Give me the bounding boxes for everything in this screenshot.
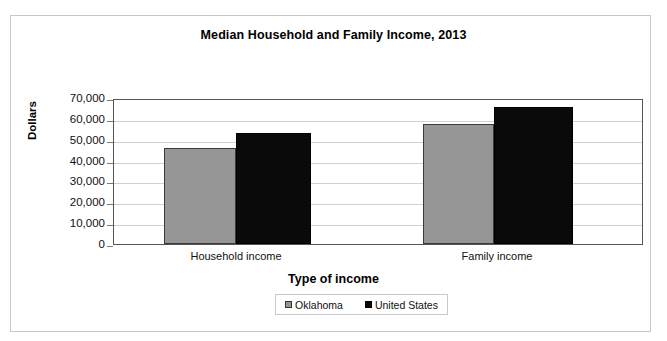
y-axis-tick-label: 70,000 (47, 93, 105, 104)
x-axis-label-household-income: Household income (166, 250, 306, 262)
y-axis-tick-label: 0 (47, 239, 105, 250)
legend-label: United States (375, 299, 438, 311)
y-axis-tick-label: 10,000 (47, 218, 105, 229)
y-axis-tick (107, 183, 113, 184)
chart-legend: OklahomaUnited States (275, 294, 448, 315)
x-axis-label-family-income: Family income (427, 250, 567, 262)
y-axis-tick-label: 60,000 (47, 114, 105, 125)
bar-united-states-household-income (236, 133, 311, 244)
y-axis-tick (107, 246, 113, 247)
y-axis-tick (107, 163, 113, 164)
y-axis-tick-label: 50,000 (47, 135, 105, 146)
bar-oklahoma-family-income (423, 124, 494, 244)
x-axis-title: Type of income (0, 272, 667, 286)
y-axis-tick (107, 100, 113, 101)
y-axis-tick (107, 142, 113, 143)
bar-oklahoma-household-income (164, 148, 236, 244)
legend-item-oklahoma: Oklahoma (285, 299, 343, 311)
y-axis-tick (107, 121, 113, 122)
legend-item-united-states: United States (365, 299, 438, 311)
bar-united-states-family-income (494, 107, 573, 244)
chart-title: Median Household and Family Income, 2013 (0, 28, 667, 42)
y-axis-tick (107, 204, 113, 205)
y-axis-tick-label: 20,000 (47, 197, 105, 208)
legend-label: Oklahoma (295, 299, 343, 311)
y-axis-tick (107, 225, 113, 226)
legend-swatch-icon (285, 301, 292, 308)
y-axis-tick-label: 40,000 (47, 156, 105, 167)
chart-page: Median Household and Family Income, 2013… (0, 0, 667, 341)
y-axis-tick-label: 30,000 (47, 176, 105, 187)
y-axis-title: Dollars (26, 126, 38, 140)
plot-area (113, 99, 643, 245)
legend-swatch-icon (365, 301, 372, 308)
